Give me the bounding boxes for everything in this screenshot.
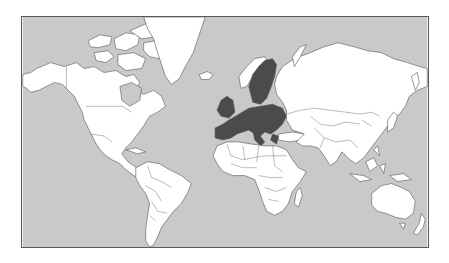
world-map-svg xyxy=(22,17,428,247)
world-map xyxy=(21,16,429,248)
